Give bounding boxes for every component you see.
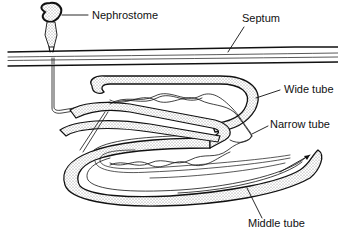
wide-tube	[60, 76, 258, 148]
label-nephrostome: Nephrostome	[92, 9, 158, 21]
label-wide-tube: Wide tube	[284, 83, 334, 95]
middle-tube	[64, 135, 322, 206]
label-septum: Septum	[242, 12, 280, 24]
label-narrow-tube: Narrow tube	[270, 118, 330, 130]
label-middle-tube: Middle tube	[248, 217, 305, 229]
nephridium-diagram: Nephrostome Septum Wide tube Narrow tube…	[0, 0, 338, 231]
septum	[8, 47, 338, 66]
